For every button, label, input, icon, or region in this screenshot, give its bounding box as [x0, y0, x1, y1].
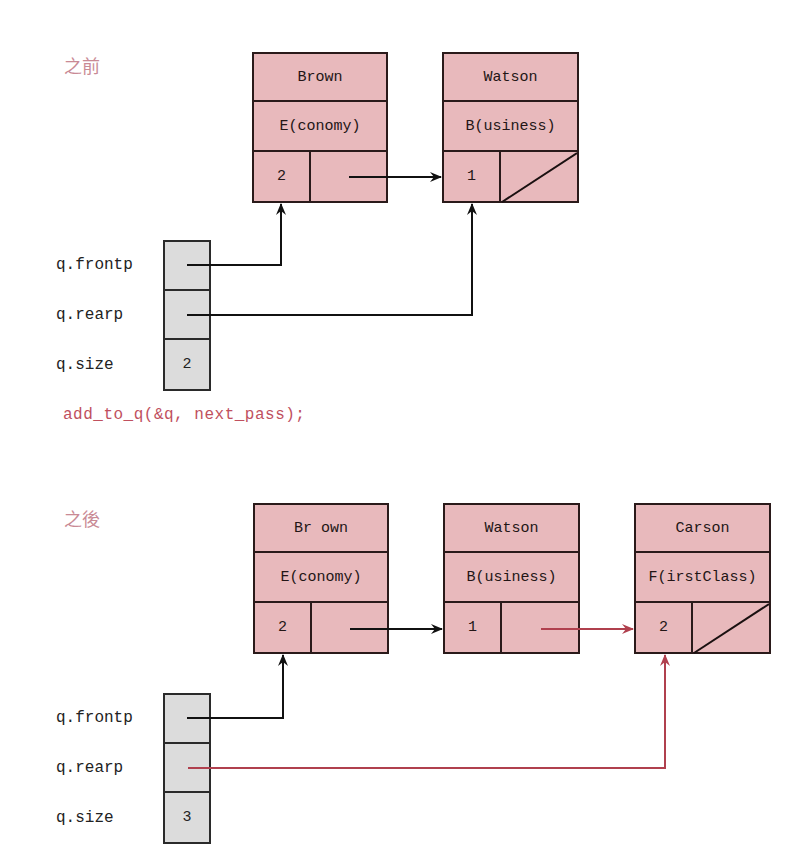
passenger-name: Watson: [445, 505, 578, 553]
q-size-label: q.size: [56, 356, 114, 374]
node-bottom-row: 2: [254, 152, 386, 201]
passenger-class: F(irstClass): [636, 553, 769, 603]
null-slash-icon: [693, 603, 769, 654]
rearp-cell: [165, 744, 209, 793]
queue-struct-before: 2: [163, 240, 211, 391]
num-bags: 2: [255, 603, 312, 652]
frontp-cell: [165, 242, 209, 291]
rearp-cell: [165, 291, 209, 340]
passenger-class: B(usiness): [445, 553, 578, 603]
null-pointer-cell: [693, 603, 769, 652]
pointer-arrows: [0, 0, 807, 861]
arrow-rearp-to-carson: [188, 655, 665, 768]
passenger-class: E(conomy): [255, 553, 387, 603]
num-bags: 1: [445, 603, 502, 652]
node-bottom-row: 1: [444, 152, 577, 201]
size-cell: 2: [165, 340, 209, 389]
null-pointer-cell: [501, 152, 577, 201]
node-brown-after: Br own E(conomy) 2: [253, 503, 389, 654]
after-label: 之後: [64, 505, 100, 531]
passenger-class: E(conomy): [254, 102, 386, 152]
passenger-name: Br own: [255, 505, 387, 553]
q-frontp-label: q.frontp: [56, 709, 133, 727]
q-rearp-label: q.rearp: [56, 759, 123, 777]
null-slash-icon: [501, 152, 577, 203]
frontp-cell: [165, 695, 209, 744]
q-size-label: q.size: [56, 809, 114, 827]
node-bottom-row: 1: [445, 603, 578, 652]
passenger-name: Brown: [254, 54, 386, 102]
node-bottom-row: 2: [255, 603, 387, 652]
function-call: add_to_q(&q, next_pass);: [63, 406, 305, 424]
before-label: 之前: [64, 52, 100, 78]
queue-struct-after: 3: [163, 693, 211, 844]
restp-pointer-cell: [312, 603, 387, 652]
node-brown-before: Brown E(conomy) 2: [252, 52, 388, 203]
passenger-class: B(usiness): [444, 102, 577, 152]
q-rearp-label: q.rearp: [56, 306, 123, 324]
arrow-rearp-to-watson: [187, 204, 472, 315]
num-bags: 2: [254, 152, 311, 201]
num-bags: 2: [636, 603, 693, 652]
num-bags: 1: [444, 152, 501, 201]
node-carson-after: Carson F(irstClass) 2: [634, 503, 771, 654]
node-bottom-row: 2: [636, 603, 769, 652]
q-frontp-label: q.frontp: [56, 256, 133, 274]
size-cell: 3: [165, 793, 209, 842]
node-watson-after: Watson B(usiness) 1: [443, 503, 580, 654]
passenger-name: Carson: [636, 505, 769, 553]
node-watson-before: Watson B(usiness) 1: [442, 52, 579, 203]
restp-pointer-cell: [311, 152, 386, 201]
restp-pointer-cell: [502, 603, 578, 652]
passenger-name: Watson: [444, 54, 577, 102]
